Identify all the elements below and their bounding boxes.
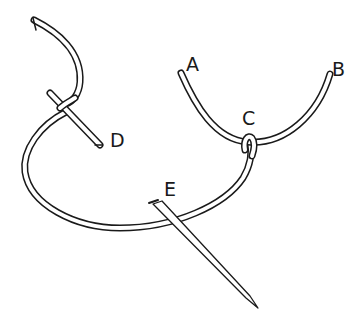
needle-e — [149, 200, 258, 308]
thread-over-needle-d — [60, 98, 75, 108]
stitch-diagram — [0, 0, 351, 324]
label-e: E — [164, 180, 176, 199]
label-b: B — [332, 60, 345, 79]
thread-arc-ab — [181, 73, 330, 142]
label-a: A — [186, 55, 199, 74]
label-c: C — [242, 109, 255, 128]
thread-tail-top — [33, 18, 80, 104]
label-d: D — [110, 131, 125, 150]
